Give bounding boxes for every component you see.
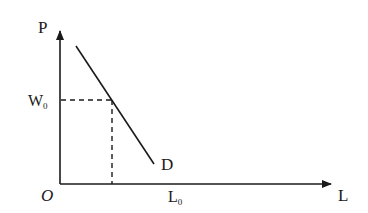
wage-label-subscript: 0: [43, 101, 48, 111]
wage-label: W0: [28, 92, 48, 111]
origin-label: O: [41, 186, 53, 205]
labor-demand-diagram: P W0 O D L0 L: [0, 0, 368, 213]
quantity-label-subscript: 0: [178, 197, 183, 207]
wage-label-main: W: [28, 92, 44, 109]
quantity-label: L0: [168, 188, 183, 207]
quantity-label-main: L: [168, 188, 178, 205]
x-axis-label: L: [338, 186, 348, 205]
demand-curve: [76, 46, 154, 164]
y-axis-label: P: [38, 18, 47, 37]
demand-curve-label: D: [161, 155, 173, 174]
